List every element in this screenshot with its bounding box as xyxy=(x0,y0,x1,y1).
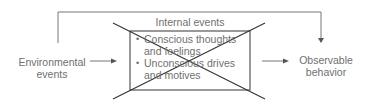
list-item-line1: Conscious thoughts xyxy=(144,33,252,45)
input-arrowhead-icon xyxy=(111,59,117,64)
environmental-events-line2: events xyxy=(6,68,98,80)
observable-behavior-line2: behavior xyxy=(290,66,362,78)
bullet-icon: • xyxy=(136,57,139,69)
bypass-arrowhead-icon xyxy=(318,38,324,43)
environmental-events-line1: Environmental xyxy=(6,56,98,68)
observable-behavior-label: Observable behavior xyxy=(290,54,362,78)
output-arrowhead-icon xyxy=(283,59,289,64)
list-item-line2: and motives xyxy=(144,69,252,81)
bullet-icon: • xyxy=(136,33,139,45)
internal-events-title: Internal events xyxy=(130,16,250,28)
diagram-canvas: Environmental events Internal events • C… xyxy=(0,0,366,107)
list-item-line2: and feelings xyxy=(144,45,252,57)
observable-behavior-line1: Observable xyxy=(290,54,362,66)
list-item-line1: Unconscious drives xyxy=(144,57,252,69)
internal-events-list: • Conscious thoughts and feelings • Unco… xyxy=(136,33,252,81)
environmental-events-label: Environmental events xyxy=(6,56,98,80)
list-item: • Conscious thoughts and feelings xyxy=(136,33,252,57)
list-item: • Unconscious drives and motives xyxy=(136,57,252,81)
